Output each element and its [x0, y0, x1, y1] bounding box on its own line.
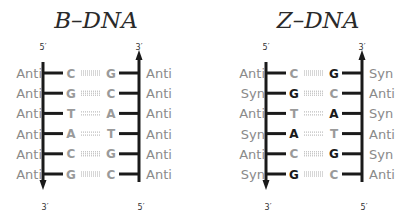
left-base: C — [290, 147, 299, 161]
left-base: G — [66, 87, 76, 101]
left-strand-top-label: 5′ — [263, 43, 270, 52]
z-dna-panel: Z–DNA5′3′3′5′AntiSynCGSynAntiGCAntiSynTA… — [239, 7, 395, 212]
right-conformation-label: Anti — [146, 86, 172, 101]
right-conformation-label: Anti — [146, 127, 172, 142]
hydrogen-bond — [81, 152, 101, 156]
left-strand-bottom-label: 3′ — [42, 203, 49, 212]
left-conformation-label: Anti — [16, 167, 42, 182]
right-base: A — [329, 107, 339, 121]
base-pair-row: AntiSynCG — [239, 147, 393, 162]
hydrogen-bond — [304, 152, 324, 156]
right-base: T — [107, 127, 116, 141]
left-base: A — [289, 127, 299, 141]
right-base: G — [329, 147, 339, 161]
left-strand-top-label: 5′ — [40, 43, 47, 52]
left-base: C — [67, 147, 76, 161]
left-strand-bottom-label: 3′ — [265, 203, 272, 212]
right-base: A — [106, 107, 116, 121]
right-strand-bottom-label: 5′ — [361, 203, 368, 212]
base-pair-row: AntiAntiTA — [16, 106, 172, 121]
right-conformation-label: Anti — [146, 66, 172, 81]
hydrogen-bond — [304, 132, 324, 135]
right-base: C — [330, 87, 339, 101]
right-conformation-label: Syn — [369, 147, 393, 162]
left-base: C — [290, 67, 299, 81]
b-dna-panel: B–DNA5′3′3′5′AntiAntiCGAntiAntiGCAntiAnt… — [16, 7, 172, 212]
dna-conformation-diagram: B–DNA5′3′3′5′AntiAntiCGAntiAntiGCAntiAnt… — [0, 0, 406, 222]
left-conformation-label: Anti — [16, 106, 42, 121]
left-conformation-label: Syn — [241, 167, 265, 182]
hydrogen-bond — [81, 112, 101, 115]
base-pair-row: AntiAntiGC — [16, 167, 172, 182]
left-conformation-label: Anti — [16, 127, 42, 142]
left-base: T — [67, 107, 76, 121]
left-conformation-label: Anti — [16, 66, 42, 81]
left-base: G — [289, 87, 299, 101]
hydrogen-bond — [81, 172, 101, 176]
right-base: G — [329, 67, 339, 81]
hydrogen-bond — [81, 71, 101, 75]
base-pair-row: AntiSynCG — [239, 66, 393, 81]
left-base: G — [66, 168, 76, 182]
left-conformation-label: Anti — [239, 147, 265, 162]
base-pair-row: SynAntiGC — [241, 86, 395, 101]
right-conformation-label: Syn — [369, 106, 393, 121]
right-base: G — [106, 147, 116, 161]
base-pair-row: SynAntiAT — [241, 127, 395, 142]
right-conformation-label: Anti — [146, 167, 172, 182]
base-pair-row: AntiAntiAT — [16, 127, 172, 142]
left-conformation-label: Anti — [239, 66, 265, 81]
hydrogen-bond — [81, 91, 101, 95]
left-conformation-label: Syn — [241, 127, 265, 142]
hydrogen-bond — [304, 71, 324, 75]
hydrogen-bond — [304, 172, 324, 176]
base-pair-row: AntiSynTA — [239, 106, 393, 121]
base-pair-row: AntiAntiCG — [16, 147, 172, 162]
right-conformation-label: Syn — [369, 66, 393, 81]
left-conformation-label: Anti — [239, 106, 265, 121]
left-conformation-label: Anti — [16, 147, 42, 162]
right-base: C — [107, 87, 116, 101]
base-pair-row: SynAntiGC — [241, 167, 395, 182]
panel-title: B–DNA — [53, 7, 138, 33]
right-conformation-label: Anti — [146, 147, 172, 162]
left-conformation-label: Syn — [241, 86, 265, 101]
hydrogen-bond — [304, 112, 324, 115]
right-base: T — [330, 127, 339, 141]
left-base: T — [290, 107, 299, 121]
panel-title: Z–DNA — [276, 7, 360, 33]
right-conformation-label: Anti — [146, 106, 172, 121]
hydrogen-bond — [304, 91, 324, 95]
right-base: G — [106, 67, 116, 81]
base-pair-row: AntiAntiGC — [16, 86, 172, 101]
right-conformation-label: Anti — [369, 86, 395, 101]
hydrogen-bond — [81, 132, 101, 135]
base-pair-row: AntiAntiCG — [16, 66, 172, 81]
right-conformation-label: Anti — [369, 167, 395, 182]
right-conformation-label: Anti — [369, 127, 395, 142]
left-base: A — [66, 127, 76, 141]
left-base: C — [67, 67, 76, 81]
left-conformation-label: Anti — [16, 86, 42, 101]
right-strand-bottom-label: 5′ — [138, 203, 145, 212]
left-base: G — [289, 168, 299, 182]
right-base: C — [330, 168, 339, 182]
right-base: C — [107, 168, 116, 182]
